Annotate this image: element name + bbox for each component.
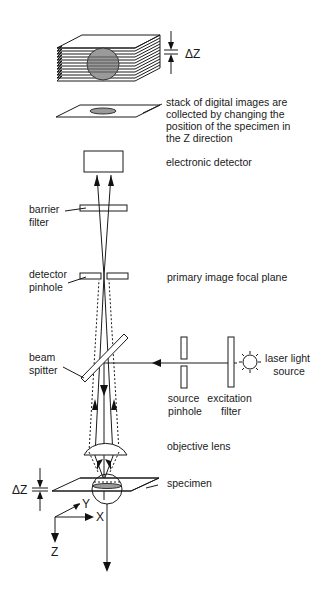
delta-z-bottom-label: ΔZ [12,483,27,497]
laser-sun-icon [239,351,261,373]
xyz-axes: Y X Z [51,497,104,559]
single-image-plate [56,104,162,117]
beam-splitter-label: beam spitter [29,351,58,376]
delta-z-bottom-marker: ΔZ [12,468,48,511]
specimen [52,474,159,504]
confocal-diagram: ΔZ stack of digital images are collected… [0,0,329,589]
delta-z-top-label: ΔZ [185,47,200,61]
barrier-filter-label: barrier filter [29,203,62,228]
laser-beam-arrow [152,359,161,367]
source-pinhole-top [181,337,187,359]
delta-z-top-marker: ΔZ [164,31,200,74]
barrier-filter [80,205,127,211]
objective-lens-label: objective lens [167,440,231,452]
laser-light-source-label: laser light source [265,352,313,377]
source-pinhole-bottom [181,366,187,388]
stack-caption: stack of digital images are collected by… [166,96,293,144]
excitation-filter [228,337,234,387]
specimen-image-sphere [87,48,119,80]
excitation-filter-label: excitation filter [207,392,254,417]
output-down-arrow [103,562,111,572]
objective-lens [84,443,127,455]
axis-y-label: Y [82,497,90,511]
detector-pinhole-right [107,273,128,279]
specimen-label: specimen [167,477,212,489]
electronic-detector [84,151,123,172]
beam-splitter [63,334,128,382]
detector-pinhole-label: detector pinhole [29,268,70,293]
electronic-detector-label: electronic detector [166,156,252,168]
axis-x-label: X [96,510,104,524]
source-pinhole-label: source pinhole [168,392,202,417]
excitation-down-arrow [100,385,108,396]
primary-image-focal-plane-label: primary image focal plane [167,271,287,283]
image-stack [57,35,160,81]
axis-z-label: Z [51,545,58,559]
